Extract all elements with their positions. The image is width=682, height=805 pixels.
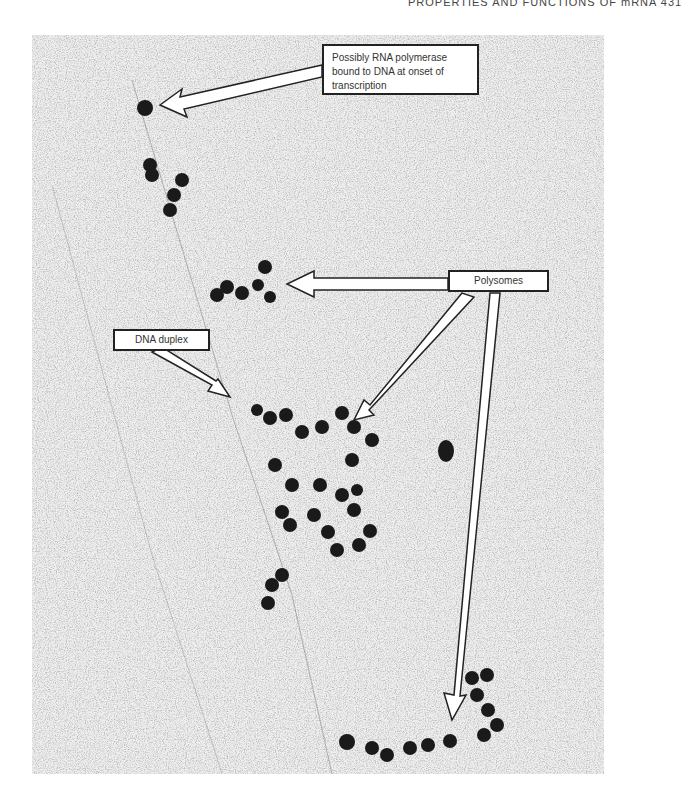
arrow-polysomes-3: [444, 293, 500, 720]
arrow-polysomes-2: [354, 293, 474, 420]
arrow-dna-duplex: [152, 347, 230, 397]
label-polysomes: Polysomes: [448, 270, 549, 292]
running-head: PROPERTIES AND FUNCTIONS OF mRNA 431: [408, 0, 682, 8]
arrow-rna-polymerase: [160, 65, 322, 117]
arrow-polysomes-1: [287, 271, 448, 297]
electron-micrograph: [32, 35, 604, 774]
label-dna-duplex: DNA duplex: [113, 329, 210, 351]
annotation-arrows: [32, 35, 604, 774]
label-rna-polymerase: Possibly RNA polymerase bound to DNA at …: [322, 44, 479, 95]
